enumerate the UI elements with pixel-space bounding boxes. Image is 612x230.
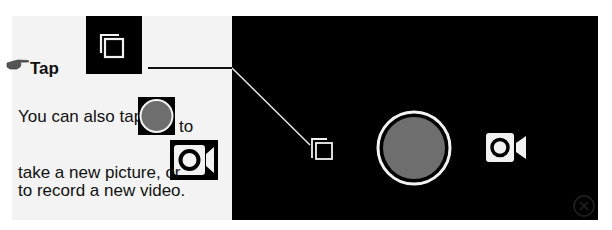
camera-panel bbox=[232, 16, 598, 220]
instruction-text-3: to record a new video. bbox=[18, 181, 185, 201]
instruction-text-1: You can also tap bbox=[18, 107, 143, 127]
tap-label: Tap bbox=[30, 59, 59, 79]
close-icon[interactable] bbox=[572, 194, 596, 218]
shutter-button[interactable] bbox=[375, 109, 453, 187]
gallery-switch-icon bbox=[86, 16, 142, 74]
video-record-button[interactable] bbox=[485, 132, 529, 164]
callout-line bbox=[148, 67, 232, 69]
instruction-text-2: take a new picture, or bbox=[18, 163, 181, 183]
instruction-text-to: to bbox=[179, 117, 193, 137]
pointing-hand-icon bbox=[6, 58, 30, 72]
gallery-switch-button[interactable] bbox=[310, 136, 336, 162]
shutter-button-icon bbox=[138, 97, 175, 135]
